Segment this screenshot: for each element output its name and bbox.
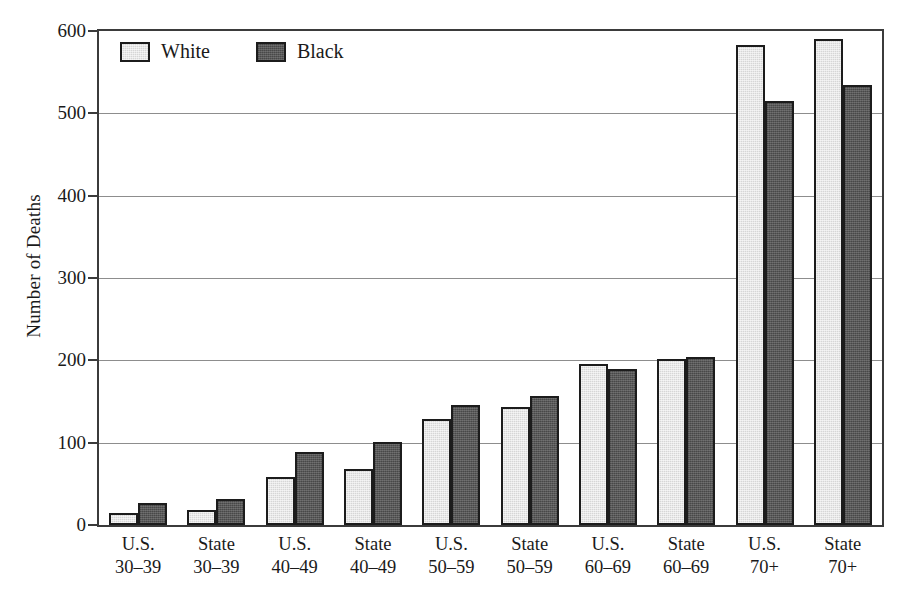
- chart-legend: WhiteBlack: [120, 40, 344, 63]
- x-axis-label-agegroup: 60–69: [647, 556, 725, 579]
- bar-black-state-60–69: [686, 357, 715, 525]
- x-axis-label-region: U.S.: [725, 533, 803, 556]
- x-axis-label-agegroup: 70+: [725, 556, 803, 579]
- x-axis-label-region: U.S.: [256, 533, 334, 556]
- x-axis-label-region: U.S.: [99, 533, 177, 556]
- bar-white-us-60–69: [579, 364, 608, 525]
- bar-group: [736, 31, 794, 525]
- x-axis-label-agegroup: 30–39: [177, 556, 255, 579]
- x-axis-label-region: State: [647, 533, 725, 556]
- y-tick-mark-600: [88, 30, 97, 32]
- legend-item-white: White: [120, 40, 210, 63]
- bar-group: [187, 31, 245, 525]
- y-tick-mark-400: [88, 195, 97, 197]
- x-axis-label-agegroup: 40–49: [334, 556, 412, 579]
- x-axis-label: U.S.70+: [725, 533, 803, 579]
- y-tick-label-200: 200: [28, 350, 86, 369]
- bar-black-state-30–39: [216, 499, 245, 525]
- legend-swatch-black: [256, 42, 286, 62]
- y-tick-mark-500: [88, 112, 97, 114]
- x-axis-label: State70+: [804, 533, 882, 579]
- x-axis-label-region: U.S.: [412, 533, 490, 556]
- bar-black-us-70+: [765, 101, 794, 525]
- bar-group: [814, 31, 872, 525]
- x-axis-label-agegroup: 30–39: [99, 556, 177, 579]
- bar-white-us-70+: [736, 45, 765, 525]
- x-axis-label: U.S.50–59: [412, 533, 490, 579]
- bar-group: [657, 31, 715, 525]
- y-tick-label-100: 100: [28, 433, 86, 452]
- bar-black-us-50–59: [451, 405, 480, 525]
- x-axis-label: U.S.30–39: [99, 533, 177, 579]
- bar-white-us-40–49: [266, 477, 295, 525]
- bar-group: [579, 31, 637, 525]
- bar-group: [344, 31, 402, 525]
- bar-series-layer: [99, 31, 882, 525]
- legend-swatch-white: [120, 42, 150, 62]
- x-axis-label: State60–69: [647, 533, 725, 579]
- bar-white-us-50–59: [422, 419, 451, 525]
- bar-white-state-50–59: [501, 407, 530, 525]
- x-axis-label: State30–39: [177, 533, 255, 579]
- x-axis-label: State40–49: [334, 533, 412, 579]
- x-axis-label-agegroup: 50–59: [491, 556, 569, 579]
- bar-white-state-30–39: [187, 510, 216, 525]
- y-tick-mark-100: [88, 442, 97, 444]
- y-tick-label-600: 600: [28, 21, 86, 40]
- x-axis-label: U.S.60–69: [569, 533, 647, 579]
- y-tick-mark-300: [88, 277, 97, 279]
- x-axis-label-region: State: [491, 533, 569, 556]
- legend-item-black: Black: [256, 40, 344, 63]
- legend-label-black: Black: [297, 40, 344, 63]
- x-axis-label-agegroup: 40–49: [256, 556, 334, 579]
- bar-group: [109, 31, 167, 525]
- bar-white-state-70+: [814, 39, 843, 525]
- legend-label-white: White: [161, 40, 210, 63]
- y-tick-label-500: 500: [28, 103, 86, 122]
- x-axis-label-agegroup: 70+: [804, 556, 882, 579]
- x-axis-label-region: State: [804, 533, 882, 556]
- y-tick-label-300: 300: [28, 268, 86, 287]
- bar-group: [266, 31, 324, 525]
- y-tick-mark-0: [88, 524, 97, 526]
- bar-black-state-70+: [843, 85, 872, 525]
- y-tick-mark-200: [88, 359, 97, 361]
- x-axis-label-agegroup: 50–59: [412, 556, 490, 579]
- bar-chart: Number of Deaths 0100200300400500600 U.S…: [0, 0, 902, 595]
- x-axis-label-region: State: [334, 533, 412, 556]
- bar-white-state-60–69: [657, 359, 686, 525]
- bar-white-us-30–39: [109, 513, 138, 525]
- x-axis-label-region: State: [177, 533, 255, 556]
- bar-white-state-40–49: [344, 469, 373, 525]
- x-axis-label: U.S.40–49: [256, 533, 334, 579]
- bar-black-us-40–49: [295, 452, 324, 525]
- x-axis-label: State50–59: [491, 533, 569, 579]
- bar-group: [501, 31, 559, 525]
- bar-black-us-30–39: [138, 503, 167, 525]
- bar-black-state-50–59: [530, 396, 559, 525]
- bar-black-us-60–69: [608, 369, 637, 525]
- y-tick-label-0: 0: [28, 515, 86, 534]
- bar-black-state-40–49: [373, 442, 402, 525]
- y-tick-label-400: 400: [28, 186, 86, 205]
- bar-group: [422, 31, 480, 525]
- x-axis-label-agegroup: 60–69: [569, 556, 647, 579]
- x-axis-label-region: U.S.: [569, 533, 647, 556]
